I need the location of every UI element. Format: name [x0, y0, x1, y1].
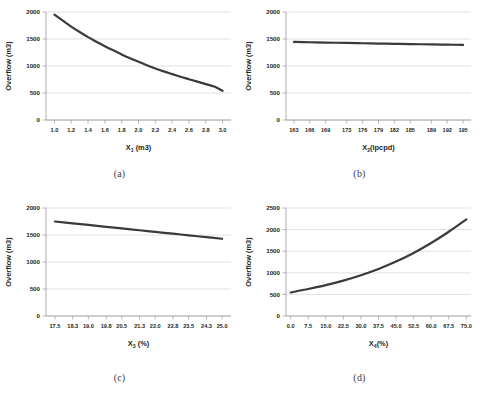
x-tick-label: 1.0	[51, 127, 59, 133]
x-tick-label: 0.0	[287, 323, 295, 329]
x-axis-title: X3 (%)	[128, 339, 150, 349]
plot-d: 050010001500200025000.07.515.022.530.037…	[240, 196, 479, 368]
y-tick-label: 1500	[26, 231, 40, 238]
caption-d: (d)	[240, 372, 479, 383]
x-tick-label: 2.8	[202, 127, 210, 133]
chart-svg-c: 050010001500200017.518.319.019.820.521.3…	[0, 196, 239, 368]
x-tick-label: 22.0	[150, 323, 161, 329]
y-tick-label: 500	[30, 285, 41, 292]
y-tick-label: 1500	[266, 35, 280, 42]
y-tick-label: 500	[30, 89, 41, 96]
x-tick-label: 189	[427, 127, 436, 133]
x-tick-label: 45.0	[391, 323, 402, 329]
figure-grid: 05001000150020001.01.21.41.61.82.02.22.4…	[0, 0, 479, 411]
x-tick-label: 30.0	[355, 323, 366, 329]
x-axis-title: X2(lpcpd)	[362, 143, 395, 153]
caption-b: (b)	[240, 168, 479, 179]
x-axis-title-unit: (%)	[136, 339, 150, 348]
x-tick-label: 2.0	[135, 127, 143, 133]
y-tick-label: 0	[37, 312, 41, 319]
y-tick-label: 1000	[266, 269, 280, 276]
x-tick-label: 166	[305, 127, 314, 133]
chart-svg-a: 05001000150020001.01.21.41.61.82.02.22.4…	[0, 0, 239, 172]
data-series-line	[294, 42, 463, 45]
y-tick-label: 500	[270, 89, 281, 96]
x-tick-label: 7.5	[304, 323, 312, 329]
x-tick-label: 1.8	[118, 127, 126, 133]
x-tick-label: 185	[406, 127, 415, 133]
plot-a: 05001000150020001.01.21.41.61.82.02.22.4…	[0, 0, 239, 172]
x-tick-label: 163	[289, 127, 298, 133]
y-tick-label: 1000	[266, 62, 280, 69]
x-tick-label: 24.3	[201, 323, 212, 329]
y-tick-label: 0	[37, 116, 41, 123]
y-tick-label: 0	[277, 116, 281, 123]
y-tick-label: 0	[277, 312, 281, 319]
x-tick-label: 2.4	[168, 127, 177, 133]
x-tick-label: 1.4	[84, 127, 93, 133]
x-axis-title-unit: (m3)	[134, 143, 152, 152]
caption-c: (c)	[0, 372, 239, 383]
y-tick-label: 1500	[26, 35, 40, 42]
x-tick-label: 195	[458, 127, 467, 133]
y-tick-label: 2000	[26, 8, 40, 15]
chart-svg-d: 050010001500200025000.07.515.022.530.037…	[240, 196, 479, 368]
x-tick-label: 19.8	[101, 323, 112, 329]
x-tick-label: 169	[321, 127, 330, 133]
x-tick-label: 37.5	[373, 323, 384, 329]
y-tick-label: 2500	[266, 204, 280, 211]
x-tick-label: 52.5	[408, 323, 419, 329]
y-tick-label: 1500	[266, 247, 280, 254]
x-tick-label: 2.2	[151, 127, 159, 133]
x-tick-label: 60.0	[426, 323, 437, 329]
x-tick-label: 21.3	[134, 323, 145, 329]
x-axis-title-unit: (%)	[377, 339, 389, 348]
y-tick-label: 500	[270, 291, 281, 298]
chart-panel-c: 050010001500200017.518.319.019.820.521.3…	[0, 196, 239, 401]
x-tick-label: 23.5	[183, 323, 194, 329]
plot-c: 050010001500200017.518.319.019.820.521.3…	[0, 196, 239, 368]
x-tick-label: 1.2	[67, 127, 75, 133]
y-axis-title: Overflow (m3)	[4, 41, 13, 91]
x-tick-label: 75.0	[461, 323, 472, 329]
chart-panel-b: 0500100015002000163166169173176179182185…	[240, 0, 479, 205]
x-tick-label: 22.8	[168, 323, 179, 329]
x-tick-label: 179	[374, 127, 383, 133]
chart-panel-a: 05001000150020001.01.21.41.61.82.02.22.4…	[0, 0, 239, 205]
x-tick-label: 22.5	[338, 323, 349, 329]
y-axis-title: Overflow (m3)	[244, 41, 253, 91]
x-tick-label: 1.6	[101, 127, 109, 133]
y-tick-label: 2000	[266, 8, 280, 15]
x-tick-label: 3.0	[219, 127, 227, 133]
x-tick-label: 15.0	[320, 323, 331, 329]
x-tick-label: 25.0	[217, 323, 228, 329]
chart-panel-d: 050010001500200025000.07.515.022.530.037…	[240, 196, 479, 401]
x-tick-label: 173	[342, 127, 351, 133]
x-axis-title-unit: (lpcpd)	[370, 143, 395, 152]
data-series-line	[55, 222, 222, 239]
x-axis-title: X4(%)	[369, 339, 389, 349]
x-tick-label: 17.5	[49, 323, 60, 329]
x-tick-label: 20.5	[116, 323, 127, 329]
y-tick-label: 2000	[266, 226, 280, 233]
x-tick-label: 18.3	[67, 323, 78, 329]
y-axis-title: Overflow (m3)	[244, 237, 253, 287]
x-tick-label: 182	[390, 127, 399, 133]
x-tick-label: 2.6	[185, 127, 193, 133]
caption-a: (a)	[0, 168, 239, 179]
data-series-line	[54, 15, 222, 91]
plot-b: 0500100015002000163166169173176179182185…	[240, 0, 479, 172]
y-tick-label: 2000	[26, 204, 40, 211]
x-tick-label: 176	[358, 127, 367, 133]
data-series-line	[291, 219, 467, 292]
x-tick-label: 192	[443, 127, 452, 133]
x-tick-label: 67.5	[443, 323, 454, 329]
x-axis-title: X1 (m3)	[126, 143, 152, 153]
x-tick-label: 19.0	[83, 323, 94, 329]
y-tick-label: 1000	[26, 62, 40, 69]
chart-svg-b: 0500100015002000163166169173176179182185…	[240, 0, 479, 172]
y-axis-title: Overflow (m3)	[4, 237, 13, 287]
y-tick-label: 1000	[26, 258, 40, 265]
